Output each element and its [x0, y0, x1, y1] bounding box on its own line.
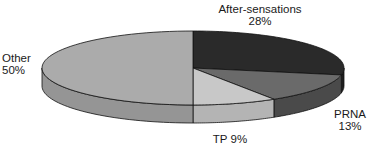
- pie-chart: [0, 0, 379, 153]
- pie-slices: [42, 31, 344, 105]
- label-other: Other 50%: [2, 52, 42, 76]
- label-after-sensations: After-sensations 28%: [205, 3, 315, 27]
- label-tp: TP 9%: [200, 133, 260, 145]
- pie-slice-after-sensations: [193, 31, 344, 75]
- label-prna: PRNA 13%: [330, 108, 370, 132]
